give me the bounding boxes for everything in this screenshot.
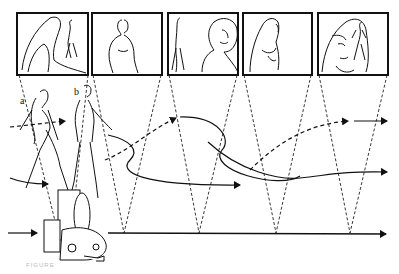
walking-figure-a: [20, 90, 70, 196]
diagram-canvas: a b FIGURE: [0, 0, 399, 274]
figure-b-path: [10, 135, 387, 185]
frame-1: [17, 13, 88, 75]
figure-label-a: a: [20, 95, 24, 106]
film-camera: [44, 190, 106, 261]
figure-label-b: b: [74, 86, 79, 97]
illustration: [0, 0, 399, 274]
frame-4: [243, 13, 312, 75]
caption: FIGURE: [26, 262, 55, 268]
